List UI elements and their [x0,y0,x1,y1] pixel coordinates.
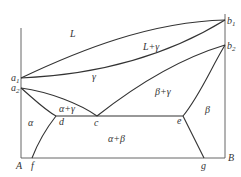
region-L: L [69,28,76,39]
label-b2: b2 [227,40,236,53]
region-L-gamma: L+γ [142,41,160,52]
liquidus-line [21,20,225,78]
region-gamma: γ [92,71,97,82]
label-B: B [228,152,234,163]
label-e: e [177,115,182,126]
beta-solvus [183,116,204,158]
phase-diagram: L L+γ γ β+γ α+γ α β α+β a1 a2 b1 b2 c d … [0,0,241,177]
alpha-gamma-boundary [21,88,56,116]
solidus-line [21,20,225,78]
label-f: f [31,160,35,171]
region-alpha: α [28,117,34,128]
region-alpha-beta: α+β [108,133,125,144]
alpha-solvus [32,116,56,158]
region-alpha-gamma: α+γ [59,103,76,114]
region-beta-gamma: β+γ [154,86,172,97]
label-c: c [94,117,99,128]
region-beta: β [204,104,210,115]
label-d: d [59,116,65,127]
beta-gamma-boundary [183,45,225,116]
label-A: A [15,160,23,171]
label-b1: b1 [227,15,236,28]
label-g: g [201,160,206,171]
